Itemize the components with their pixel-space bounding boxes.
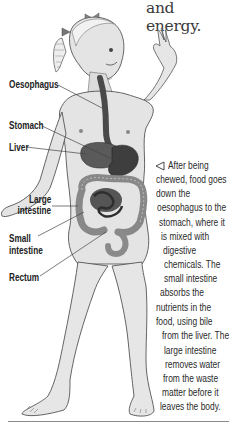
caption-line: removes water <box>165 357 220 372</box>
caption-line: down the <box>156 186 190 201</box>
caption-line: digestive <box>163 243 196 258</box>
caption-line: from the liver. The <box>162 328 229 343</box>
bottom-rule <box>8 421 229 422</box>
caption-line: absorbs the <box>160 285 204 300</box>
caption-line: After being <box>168 158 209 173</box>
caption-line: matter before it <box>162 385 219 400</box>
caption-line: chewed, food goes <box>156 172 227 187</box>
caption-line: nutrients in the <box>156 300 211 315</box>
caption-line: stomach, where it <box>159 215 225 230</box>
caption-line: oesophagus to the <box>157 200 226 215</box>
caption-line: leaves the body. <box>160 399 221 414</box>
caption-line: food, using bile <box>156 314 213 329</box>
caption-block: After being chewed, food goes down the o… <box>0 0 229 423</box>
caption-line: chemicals. The <box>164 257 220 272</box>
caption-line: large intestine <box>164 343 216 358</box>
caption-line: from the waste <box>163 371 218 386</box>
caption-line: is mixed with <box>161 229 209 244</box>
caption-line: small intestine <box>164 271 217 286</box>
left-triangle-pointer-icon <box>155 161 165 171</box>
